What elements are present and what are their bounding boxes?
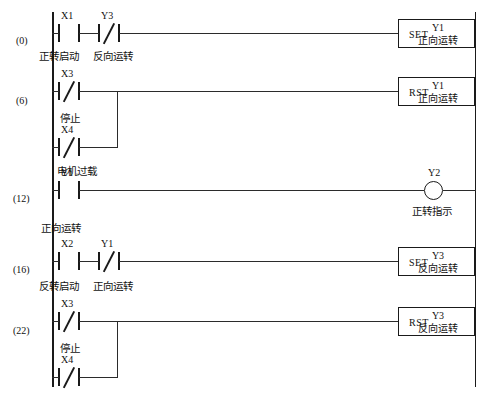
wire-x4-to-junction-rung22	[79, 377, 117, 378]
instruction-box-rst-y3[interactable]: RST Y3 反向运转	[398, 307, 475, 336]
contact-comment-y3: 反向运转	[93, 48, 133, 63]
contact-x3-nc-rung22[interactable]	[58, 312, 80, 330]
coil-label-y2: Y2	[428, 167, 440, 178]
contact-label-y3: Y3	[101, 10, 113, 21]
operand-comment: 反向运转	[410, 262, 466, 275]
contact-x4-nc-rung6[interactable]	[58, 138, 80, 156]
contact-comment-x1: 正转启动	[39, 48, 79, 63]
step-number-0: (0)	[16, 35, 28, 46]
operand-comment: 正向运转	[410, 34, 466, 47]
step-number-22: (22)	[13, 325, 30, 336]
wire-y1-to-set2	[119, 261, 399, 262]
contact-comment-y1-rung12: 正向运转	[41, 220, 81, 235]
instruction-box-set-y1[interactable]: SET Y1 正向运转	[398, 19, 475, 48]
operand-id: Y1	[410, 22, 466, 34]
wire-rail-to-x4-rung22	[52, 377, 59, 378]
contact-comment-y1-rung16: 正向运转	[93, 278, 133, 293]
contact-comment-x2-rung16: 反转启动	[39, 278, 79, 293]
operand-comment: 正向运转	[410, 92, 466, 105]
wire-coil-to-right-rail	[443, 190, 476, 191]
instruction-operand-set-y1: Y1 正向运转	[410, 22, 466, 47]
contact-label-y1-rung12: Y1	[61, 167, 73, 178]
contact-y1-no-rung12[interactable]	[58, 181, 80, 199]
operand-id: Y3	[410, 310, 466, 322]
contact-label-x3-rung22: X3	[61, 298, 73, 309]
wire-junction-to-rst2	[117, 321, 399, 322]
contact-comment-x3-rung6: 停止	[60, 110, 80, 125]
wire-y1-to-coil-y2	[79, 190, 424, 191]
branch-connector-rung22	[117, 321, 118, 378]
right-power-rail	[475, 12, 476, 387]
instruction-box-rst-y1[interactable]: RST Y1 正向运转	[398, 77, 475, 106]
operand-id: Y3	[410, 250, 466, 262]
instruction-box-set-y3[interactable]: SET Y3 反向运转	[398, 247, 475, 276]
contact-label-x2-rung16: X2	[61, 238, 73, 249]
step-number-16: (16)	[13, 264, 30, 275]
step-number-12: (12)	[13, 193, 30, 204]
wire-junction-to-rst1	[117, 91, 399, 92]
contact-x1-no[interactable]	[58, 24, 80, 42]
contact-label-x4-rung6: X4	[61, 124, 73, 135]
coil-y2[interactable]	[424, 181, 443, 200]
wire-rail-to-x4-rung6	[52, 147, 59, 148]
wire-x4-to-junction-rung6	[79, 147, 117, 148]
contact-comment-x3-rung22: 停止	[60, 340, 80, 355]
coil-comment-y2: 正转指示	[412, 203, 452, 218]
wire-rail-to-y1-rung12	[52, 190, 59, 191]
contact-y1-nc-rung16[interactable]	[98, 252, 120, 270]
instruction-operand-rst-y3: Y3 反向运转	[410, 310, 466, 335]
wire-x1-to-y3	[79, 33, 99, 34]
operand-id: Y1	[410, 80, 466, 92]
wire-x3-to-junction-rung6	[79, 91, 117, 92]
branch-connector-rung6	[117, 91, 118, 148]
contact-x2-no-rung16[interactable]	[58, 252, 80, 270]
instruction-operand-rst-y1: Y1 正向运转	[410, 80, 466, 105]
wire-rail-to-x1	[52, 33, 59, 34]
wire-rail-to-x3-rung6	[52, 91, 59, 92]
contact-label-y1-rung16: Y1	[101, 238, 113, 249]
wire-x2-to-y1-rung16	[79, 261, 99, 262]
instruction-operand-set-y3: Y3 反向运转	[410, 250, 466, 275]
contact-label-x4-rung22: X4	[61, 354, 73, 365]
contact-y3-nc[interactable]	[98, 24, 120, 42]
left-power-rail	[52, 12, 54, 387]
contact-label-x3-rung6: X3	[61, 68, 73, 79]
wire-y3-to-set1	[119, 33, 399, 34]
step-number-6: (6)	[16, 95, 28, 106]
contact-x3-nc-rung6[interactable]	[58, 82, 80, 100]
operand-comment: 反向运转	[410, 322, 466, 335]
ladder-diagram-canvas: (0) X1 Y3 正转启动 反向运转 SET Y1 正向运转 (6)	[0, 0, 496, 397]
contact-x4-nc-rung22[interactable]	[58, 368, 80, 386]
wire-x3-to-junction-rung22	[79, 321, 117, 322]
wire-rail-to-x2-rung16	[52, 261, 59, 262]
wire-rail-to-x3-rung22	[52, 321, 59, 322]
contact-label-x1: X1	[61, 10, 73, 21]
